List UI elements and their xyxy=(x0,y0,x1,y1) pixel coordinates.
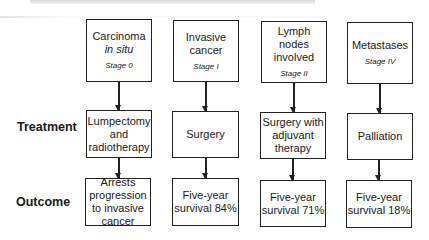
treatment-box-0: Lumpectomy and radiotherapy xyxy=(86,110,152,158)
faded-header-band xyxy=(30,0,315,4)
treatment-box-2: Surgery with adjuvant therapy xyxy=(260,112,326,159)
stage-title: Carcinoma xyxy=(92,30,145,43)
treatment-text: Palliation xyxy=(358,130,403,143)
treatment-text: Lumpectomy and radiotherapy xyxy=(88,115,151,154)
stage-label: Stage II xyxy=(280,69,308,79)
outcome-text: Arrests progression to invasive cancer xyxy=(89,176,146,228)
outcome-text: Five-year survival 84% xyxy=(174,189,236,215)
treatment-text: Surgery xyxy=(186,128,225,141)
stage-box-3: Metastases Stage IV xyxy=(347,22,413,84)
row-label-outcome: Outcome xyxy=(16,195,70,209)
stage-title: Lymph nodes involved xyxy=(274,25,314,64)
outcome-text: Five-year survival 18% xyxy=(348,191,410,217)
arrow-down-icon xyxy=(379,84,381,113)
arrow-down-icon xyxy=(205,158,207,178)
outcome-box-1: Five-year survival 84% xyxy=(172,178,239,226)
row-label-treatment: Treatment xyxy=(17,120,77,134)
faded-header-line xyxy=(0,16,320,18)
treatment-box-3: Palliation xyxy=(347,113,413,160)
stage-title: Invasive cancer xyxy=(186,31,226,57)
outcome-text: Five-year survival 71% xyxy=(262,191,324,217)
treatment-text: Surgery with adjuvant therapy xyxy=(262,116,323,155)
arrow-down-icon xyxy=(293,83,295,112)
arrow-down-icon xyxy=(118,82,120,110)
stage-label: Stage IV xyxy=(365,57,396,67)
stage-title: Metastases xyxy=(352,39,408,52)
outcome-box-2: Five-year survival 71% xyxy=(260,180,326,227)
arrow-down-icon xyxy=(378,160,380,180)
arrow-down-icon xyxy=(292,159,294,180)
treatment-box-1: Surgery xyxy=(172,111,239,158)
stage-box-0: Carcinoma in situ Stage 0 xyxy=(86,19,152,82)
stage-box-2: Lymph nodes involved Stage II xyxy=(261,21,327,83)
stage-label: Stage I xyxy=(193,62,218,72)
stage-box-1: Invasive cancer Stage I xyxy=(173,20,239,82)
outcome-box-3: Five-year survival 18% xyxy=(346,180,412,228)
outcome-box-0: Arrests progression to invasive cancer xyxy=(85,178,151,226)
stage-label: Stage 0 xyxy=(105,61,133,71)
stage-subtitle: in situ xyxy=(105,43,134,56)
arrow-down-icon xyxy=(118,158,120,178)
arrow-down-icon xyxy=(205,82,207,111)
